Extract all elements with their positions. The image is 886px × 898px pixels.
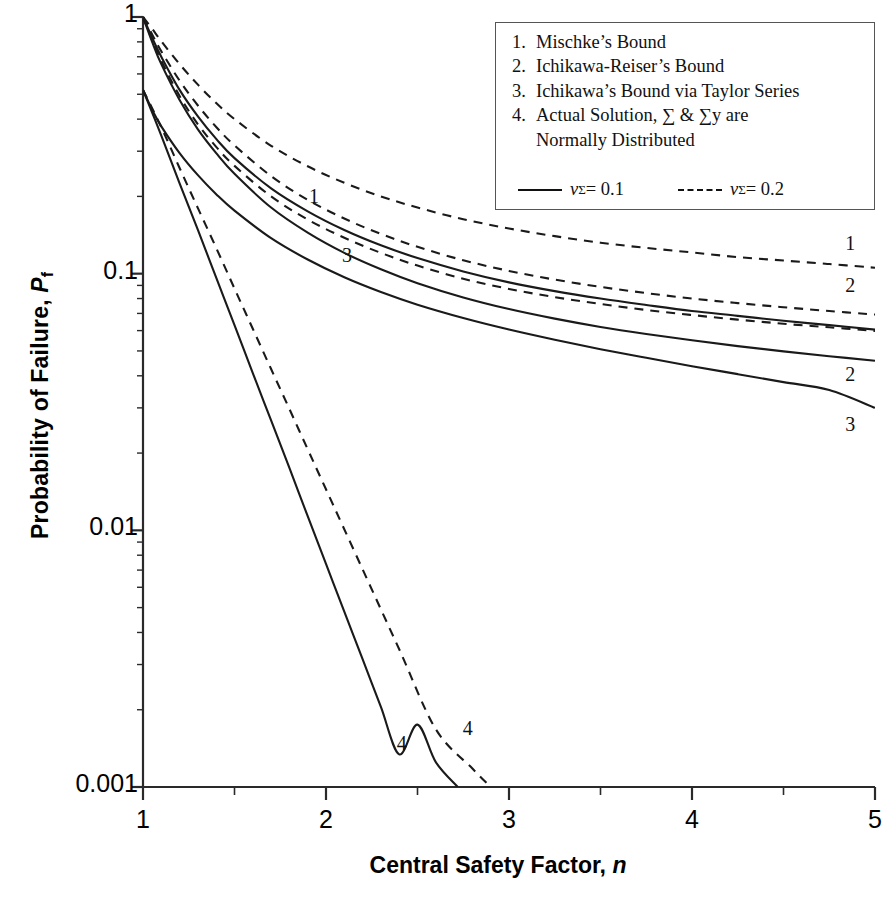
curve-label-1: 1 xyxy=(845,232,855,255)
legend-item-3: 3.Ichikawa’s Bound via Taylor Series xyxy=(512,79,862,103)
curve-label-3: 3 xyxy=(342,244,352,267)
y-tick-label: 0.1 xyxy=(103,256,138,285)
y-tick-label: 0.01 xyxy=(89,512,138,541)
legend-key-2: νΣ = 0.2 xyxy=(678,179,784,200)
x-tick-label: 2 xyxy=(306,805,346,834)
legend-key-value: = 0.2 xyxy=(746,179,784,200)
legend-keys: νΣ = 0.1νΣ = 0.2 xyxy=(518,179,858,200)
legend-box: 1.Mischke’s Bound2.Ichikawa-Reiser’s Bou… xyxy=(495,22,875,210)
legend-item-label: Actual Solution, ∑ & ∑y are xyxy=(536,103,862,127)
legend-item-number: 3. xyxy=(512,79,536,103)
legend-key-value: = 0.1 xyxy=(586,179,624,200)
legend-item-continuation: Normally Distributed xyxy=(536,128,862,152)
x-tick-label: 3 xyxy=(489,805,529,834)
legend-key-symbol: ν xyxy=(730,179,738,200)
curve-label-3: 3 xyxy=(845,413,855,436)
legend-key-dashed-line-icon xyxy=(678,189,722,191)
legend-item-label: Ichikawa’s Bound via Taylor Series xyxy=(536,79,862,103)
legend-item-number: 1. xyxy=(512,30,536,54)
x-tick-label: 1 xyxy=(123,805,163,834)
y-tick-label: 1 xyxy=(124,0,138,28)
x-tick-label: 4 xyxy=(672,805,712,834)
legend-key-1: νΣ = 0.1 xyxy=(518,179,624,200)
legend-item-1: 1.Mischke’s Bound xyxy=(512,30,862,54)
legend-item-2: 2.Ichikawa-Reiser’s Bound xyxy=(512,54,862,78)
legend-item-number: 2. xyxy=(512,54,536,78)
legend-item-number: 4. xyxy=(512,103,536,127)
curve-label-4: 4 xyxy=(463,717,473,740)
legend-items: 1.Mischke’s Bound2.Ichikawa-Reiser’s Bou… xyxy=(512,30,862,152)
chart-figure: Probability of Failure, Pf Central Safet… xyxy=(0,0,886,898)
legend-key-subscript: Σ xyxy=(738,182,746,198)
y-tick-label: 0.001 xyxy=(75,769,138,798)
curve-label-4: 4 xyxy=(397,732,407,755)
legend-item-4: 4.Actual Solution, ∑ & ∑y are xyxy=(512,103,862,127)
legend-item-label: Ichikawa-Reiser’s Bound xyxy=(536,54,862,78)
legend-item-label: Mischke’s Bound xyxy=(536,30,862,54)
curve-label-2: 2 xyxy=(845,274,855,297)
x-tick-label: 5 xyxy=(855,805,886,834)
curve-label-1: 1 xyxy=(309,185,319,208)
curve-label-2: 2 xyxy=(845,363,855,386)
legend-key-symbol: ν xyxy=(570,179,578,200)
legend-key-subscript: Σ xyxy=(578,182,586,198)
legend-key-solid-line-icon xyxy=(518,189,562,191)
